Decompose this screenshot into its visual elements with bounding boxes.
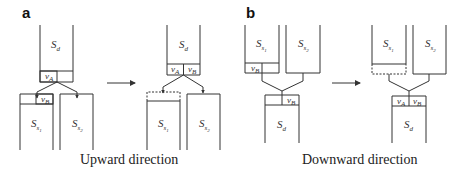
svg-text:Sd: Sd <box>179 38 189 53</box>
svg-text:Ss2: Ss2 <box>298 37 309 53</box>
diagram-canvas: a b Sd vA vB Ss1 Ss2 Sd vA vB <box>0 0 465 173</box>
caption-downward: Downward direction <box>302 152 417 167</box>
svg-text:Ss2: Ss2 <box>199 117 210 133</box>
svg-text:Sd: Sd <box>404 118 414 133</box>
svg-text:Ss1: Ss1 <box>158 117 169 133</box>
container-ss2-after <box>413 25 446 74</box>
panel-label-a: a <box>22 4 31 21</box>
label-sd: Sd <box>51 38 61 53</box>
svg-text:Ss1: Ss1 <box>256 37 267 53</box>
label-ss1: Ss1 <box>31 117 42 133</box>
svg-text:vA: vA <box>171 64 180 76</box>
label-ss2: Ss2 <box>72 117 83 133</box>
panel-a-before: Sd vA vB Ss1 Ss2 <box>20 25 93 150</box>
svg-text:Ss2: Ss2 <box>425 37 436 53</box>
caption-upward: Upward direction <box>80 152 178 167</box>
cell-va-label: vA <box>45 71 54 83</box>
svg-text:Sd: Sd <box>277 118 287 133</box>
panel-label-b: b <box>246 4 255 21</box>
panel-a-after: Sd vA vB Ss1 Ss2 <box>147 25 220 150</box>
svg-text:Ss1: Ss1 <box>383 37 394 53</box>
panel-b-after: Ss1 Ss2 vA vB Sd <box>372 25 446 143</box>
panel-b-before: Ss1 vB Ss2 vB Sd <box>245 25 320 143</box>
svg-text:vB: vB <box>188 64 197 76</box>
